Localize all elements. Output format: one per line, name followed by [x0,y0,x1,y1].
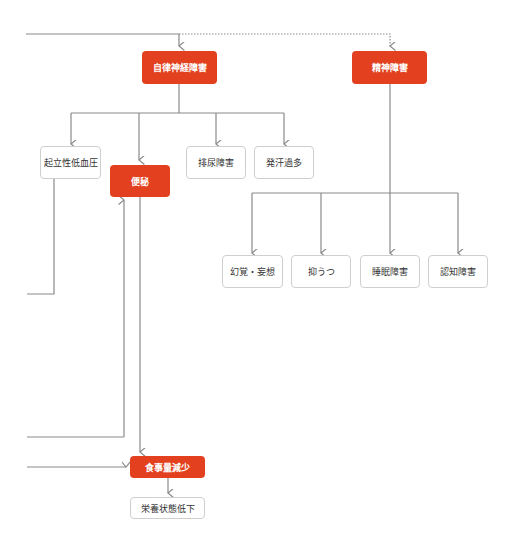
node-depression: 抑うつ [291,255,351,288]
node-orthostatic-hypotension: 起立性低血圧 [40,146,101,179]
node-reduced-food-intake: 食事量減少 [130,456,205,478]
node-constipation: 便秘 [110,165,170,197]
node-sleep-disorder: 睡眠障害 [360,255,420,288]
node-nutritional-decline: 栄養状態低下 [130,497,205,519]
node-cognitive-disorder: 認知障害 [428,255,488,288]
node-excessive-sweating: 発汗過多 [254,146,314,179]
node-urinary-disorder: 排尿障害 [186,146,246,179]
node-autonomic-disorder: 自律神経障害 [142,51,217,84]
node-hallucination-delusion: 幻覚・妄想 [222,255,283,288]
node-psychiatric-disorder: 精神障害 [352,51,427,84]
